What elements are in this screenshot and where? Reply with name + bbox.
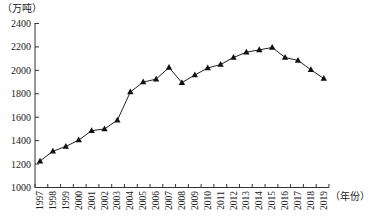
x-tick-label: 1998 <box>48 191 58 210</box>
x-tick-label: 2011 <box>216 191 226 210</box>
x-tick-label: 1997 <box>35 191 45 210</box>
triangle-marker <box>166 64 172 70</box>
y-axis-unit-label: （万吨） <box>2 2 42 14</box>
x-tick-label: 2004 <box>125 191 135 210</box>
x-tick-label: 2014 <box>254 191 264 210</box>
y-tick-label: 1200 <box>11 159 31 170</box>
x-tick-label: 2008 <box>177 191 187 210</box>
x-tick-label: 2012 <box>229 191 239 210</box>
x-tick-label: 2015 <box>267 191 277 210</box>
y-tick-label: 1000 <box>11 182 31 193</box>
y-tick-label: 1600 <box>11 112 31 123</box>
triangle-marker <box>76 137 82 143</box>
x-tick-label: 2003 <box>112 191 122 210</box>
triangle-marker <box>101 125 107 131</box>
triangle-marker <box>217 61 223 67</box>
triangle-marker <box>192 72 198 78</box>
series-line <box>40 48 324 162</box>
triangle-marker <box>269 44 275 50</box>
triangle-marker <box>321 75 327 81</box>
y-tick-label: 1800 <box>11 88 31 99</box>
x-axis-unit-label: （年份） <box>330 190 369 202</box>
data-markers <box>37 44 327 163</box>
x-tick-label: 2006 <box>151 191 161 210</box>
x-tick-label: 2009 <box>190 191 200 210</box>
triangle-marker <box>282 54 288 60</box>
x-tick-label: 2007 <box>164 191 174 210</box>
x-tick-label: 2010 <box>203 191 213 210</box>
triangle-marker <box>308 66 314 72</box>
triangle-marker <box>37 158 43 164</box>
x-tick-label: 2018 <box>306 191 316 210</box>
triangle-marker <box>127 89 133 95</box>
x-tick-label: 2000 <box>74 191 84 210</box>
y-tick-label: 2200 <box>11 41 31 52</box>
x-tick-label: 2013 <box>241 191 251 210</box>
x-tick-label: 2017 <box>293 191 303 210</box>
x-tick-label: 2002 <box>100 191 110 210</box>
line-chart: （万吨） 10001200140016001800200022002400 19… <box>0 0 369 224</box>
x-tick-label: 1999 <box>61 191 71 210</box>
x-tick-label: 2001 <box>87 191 97 210</box>
y-tick-label: 1400 <box>11 135 31 146</box>
y-tick-label: 2400 <box>11 18 31 29</box>
x-tick-label: 2005 <box>138 191 148 210</box>
x-tick-label: 2019 <box>319 191 329 210</box>
x-tick-label: 2016 <box>280 191 290 210</box>
triangle-marker <box>114 117 120 123</box>
y-tick-label: 2000 <box>11 65 31 76</box>
